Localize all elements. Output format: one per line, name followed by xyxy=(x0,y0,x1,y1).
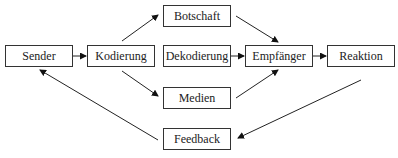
node-feedback: Feedback xyxy=(163,128,231,150)
node-empfaenger: Empfänger xyxy=(245,45,313,67)
node-label: Medien xyxy=(179,91,216,106)
node-reaktion: Reaktion xyxy=(327,45,395,67)
node-label: Botschaft xyxy=(174,9,220,24)
node-label: Empfänger xyxy=(252,49,305,64)
node-medien: Medien xyxy=(163,87,231,109)
node-label: Kodierung xyxy=(95,49,146,64)
node-dekodierung: Dekodierung xyxy=(163,45,231,67)
node-sender: Sender xyxy=(5,45,73,67)
node-label: Reaktion xyxy=(339,49,382,64)
node-label: Dekodierung xyxy=(166,49,229,64)
edge-medien-empfaenger xyxy=(236,70,278,98)
node-kodierung: Kodierung xyxy=(87,45,155,67)
node-botschaft: Botschaft xyxy=(163,5,231,27)
edge-feedback-sender xyxy=(40,70,158,140)
edge-kodierung-medien xyxy=(122,71,158,96)
edge-botschaft-empfaenger xyxy=(236,16,278,42)
node-label: Feedback xyxy=(174,132,220,147)
edge-reaktion-feedback xyxy=(238,80,361,138)
node-label: Sender xyxy=(22,49,55,64)
edge-kodierung-botschaft xyxy=(122,15,158,41)
